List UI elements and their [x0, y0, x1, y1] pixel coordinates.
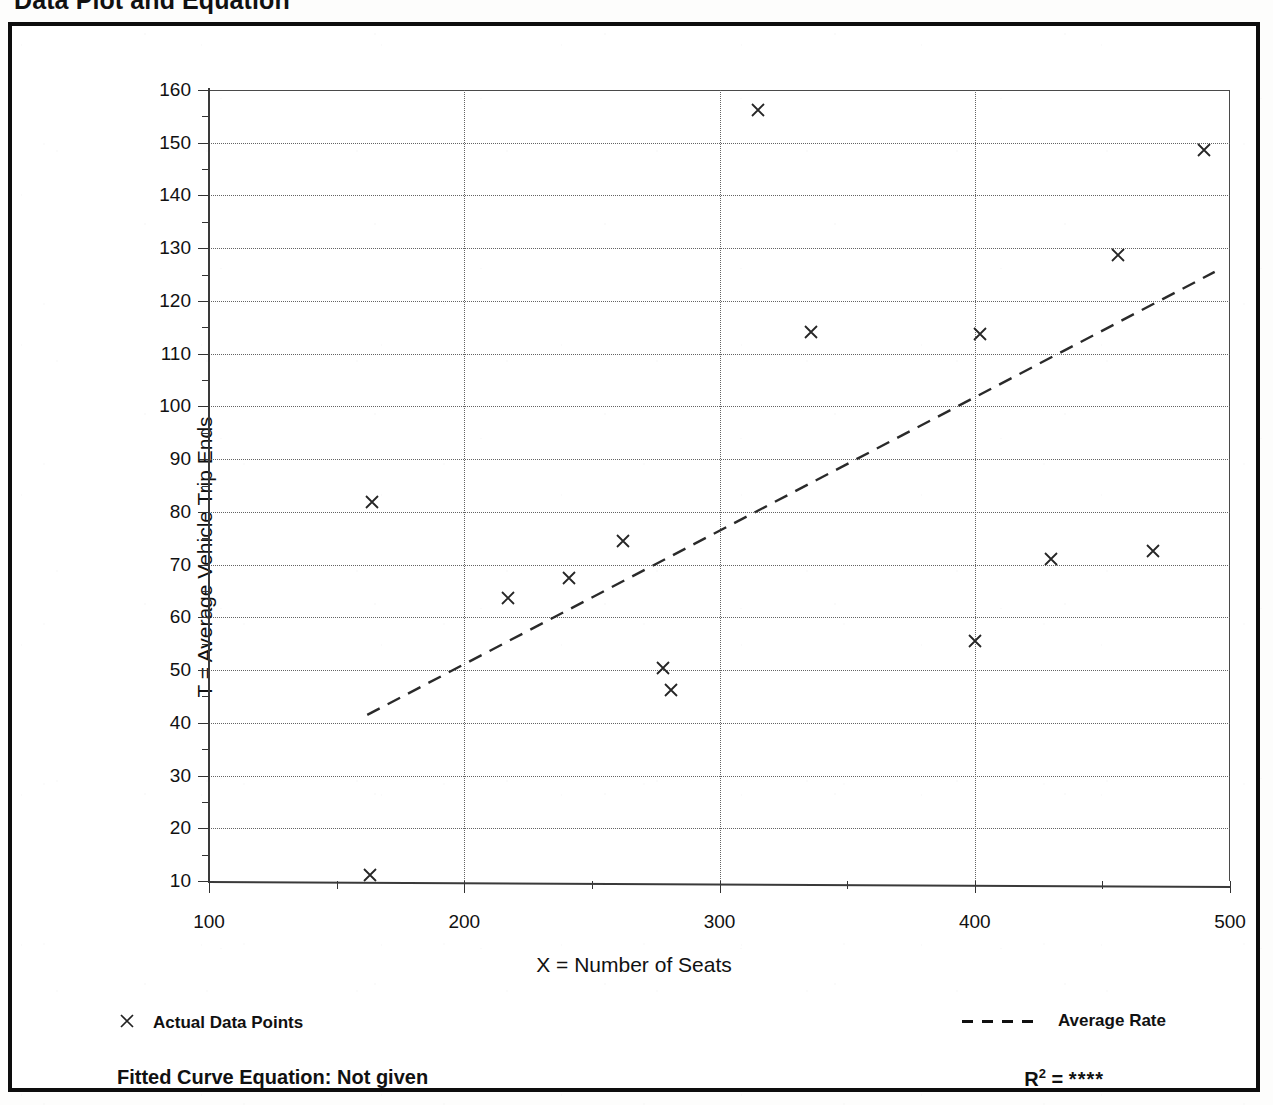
- data-point-marker: [364, 494, 381, 511]
- legend-item-actual-data-points: Actual Data Points: [117, 1011, 303, 1035]
- x-tick-label: 500: [1214, 911, 1246, 933]
- x-tick-label: 200: [448, 911, 480, 933]
- x-tick-label: 300: [704, 911, 736, 933]
- data-point-marker: [749, 101, 766, 118]
- r-squared-equals: =: [1052, 1068, 1064, 1090]
- y-tick-label: 90: [170, 448, 191, 470]
- y-tick-label: 40: [170, 712, 191, 734]
- gridline-vertical: [720, 90, 721, 881]
- legend-item-average-rate: Average Rate: [962, 1011, 1166, 1031]
- gridline-vertical: [975, 90, 976, 881]
- data-point-marker: [655, 659, 672, 676]
- y-axis-line: [208, 88, 210, 883]
- legend-label-average-rate: Average Rate: [1058, 1011, 1166, 1031]
- y-tick-label: 160: [159, 79, 191, 101]
- plot-border-right: [1229, 90, 1230, 881]
- data-point-marker: [803, 323, 820, 340]
- r-squared-symbol: R: [1024, 1068, 1038, 1090]
- data-point-marker: [560, 569, 577, 586]
- gridline-vertical: [464, 90, 465, 881]
- y-tick-label: 60: [170, 606, 191, 628]
- y-tick-label: 20: [170, 817, 191, 839]
- data-point-marker: [966, 632, 983, 649]
- legend-label-actual-data-points: Actual Data Points: [153, 1013, 303, 1033]
- data-point-marker: [1145, 542, 1162, 559]
- y-tick-label: 130: [159, 237, 191, 259]
- plot-area: 102030405060708090100110120130140150160 …: [209, 90, 1230, 881]
- data-point-marker: [361, 866, 378, 883]
- data-point-marker: [614, 533, 631, 550]
- data-point-marker: [663, 682, 680, 699]
- footer: Fitted Curve Equation: Not given R2 = **…: [12, 1066, 1256, 1102]
- x-tick-label: 400: [959, 911, 991, 933]
- y-tick-label: 120: [159, 290, 191, 312]
- data-point-marker: [1109, 246, 1126, 263]
- y-tick-label: 110: [161, 343, 191, 365]
- page-title: Data Plot and Equation: [14, 0, 290, 15]
- x-tick-label: 100: [193, 911, 225, 933]
- y-tick-label: 50: [170, 659, 191, 681]
- y-tick-label: 80: [170, 501, 191, 523]
- data-point-marker: [1196, 141, 1213, 158]
- x-axis-title: X = Number of Seats: [12, 953, 1256, 977]
- r-squared-stars: ****: [1069, 1068, 1104, 1090]
- tick-x-major: [975, 881, 976, 893]
- data-point-marker: [499, 590, 516, 607]
- y-tick-label: 100: [159, 395, 191, 417]
- r-squared-value: R2 = ****: [1024, 1066, 1104, 1091]
- data-point-marker: [971, 325, 988, 342]
- y-tick-label: 70: [170, 554, 191, 576]
- data-point-marker: [1043, 551, 1060, 568]
- trend-line-segment: [367, 272, 1214, 715]
- dashed-line-icon: [962, 1020, 1040, 1023]
- y-tick-label: 150: [159, 132, 191, 154]
- legend: Actual Data Points Average Rate: [12, 1011, 1256, 1045]
- y-tick-label: 30: [170, 765, 191, 787]
- y-tick-label: 140: [159, 184, 191, 206]
- fitted-curve-equation: Fitted Curve Equation: Not given: [117, 1066, 428, 1089]
- r-squared-exponent: 2: [1039, 1066, 1046, 1081]
- y-tick-label: 10: [170, 870, 191, 892]
- chart-frame: T = Average Vehicle Trip Ends 1020304050…: [8, 22, 1260, 1092]
- x-marker-icon: [117, 1011, 137, 1035]
